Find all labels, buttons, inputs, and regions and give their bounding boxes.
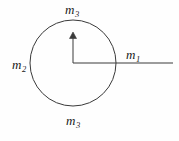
mass-symbol-left: m xyxy=(12,57,22,72)
mass-label-bottom: m3 xyxy=(66,114,80,127)
vertical-arrow-head-icon xyxy=(70,32,77,39)
mass-symbol-bottom: m xyxy=(66,113,76,128)
mass-label-top: m3 xyxy=(65,3,79,16)
physics-diagram-figure: m3 m2 m1 m3 xyxy=(0,0,179,141)
mass-subscript-right: 1 xyxy=(136,54,140,64)
mass-subscript-bottom: 3 xyxy=(76,120,80,130)
mass-subscript-left: 2 xyxy=(22,64,26,74)
mass-symbol-right: m xyxy=(126,47,136,62)
mass-label-left: m2 xyxy=(12,58,26,71)
mass-subscript-top: 3 xyxy=(75,9,79,19)
mass-symbol-top: m xyxy=(65,2,75,17)
mass-label-right: m1 xyxy=(126,48,140,61)
